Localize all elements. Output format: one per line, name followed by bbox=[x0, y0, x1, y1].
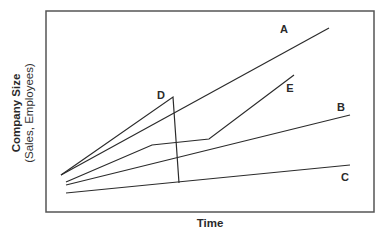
series-line-d bbox=[61, 97, 179, 183]
plot-frame bbox=[46, 11, 374, 212]
series-label-a: A bbox=[280, 23, 288, 35]
y-axis-label-sub: (Sales, Employees) bbox=[23, 63, 36, 163]
series-label-e: E bbox=[286, 82, 293, 94]
series-label-b: B bbox=[337, 101, 345, 113]
company-growth-diagram: Company Size (Sales, Employees) Time A B… bbox=[0, 0, 385, 239]
plot-area bbox=[0, 0, 385, 239]
series-line-c bbox=[66, 165, 350, 193]
y-axis-label: Company Size (Sales, Employees) bbox=[10, 63, 36, 163]
series-label-c: C bbox=[341, 171, 349, 183]
series-line-e bbox=[66, 75, 294, 182]
x-axis-label: Time bbox=[197, 217, 224, 229]
series-label-d: D bbox=[157, 89, 165, 101]
y-axis-label-main: Company Size bbox=[10, 63, 23, 163]
series-line-b bbox=[66, 115, 350, 185]
